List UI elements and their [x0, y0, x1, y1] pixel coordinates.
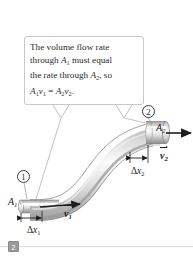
- leader-point-1: [24, 183, 27, 199]
- callout-equation: A1v1 = A2v2.: [30, 85, 142, 100]
- callout-tails: [53, 105, 132, 118]
- velocity-arrow-1: [40, 204, 80, 207]
- label-area-1: A1: [8, 196, 18, 208]
- callout-line-1: The volume flow rate: [30, 41, 142, 54]
- dimension-delta-x1: [21, 211, 42, 222]
- label-delta-x1: Δx1: [27, 225, 41, 236]
- label-velocity-2: v2: [160, 150, 168, 162]
- leader-area-1: [19, 200, 21, 205]
- callout-line-2: through A1 must equal: [30, 54, 142, 69]
- dimension-delta-x2: [130, 145, 148, 163]
- leader-point-2: [148, 118, 152, 124]
- label-velocity-1: v1: [64, 208, 72, 220]
- point-marker-2: 2: [142, 105, 155, 118]
- label-delta-x2: Δx2: [131, 166, 145, 177]
- label-area-2: A2: [156, 122, 166, 134]
- point-marker-1: 1: [17, 170, 30, 183]
- callout-line-3: the rate through A2, so: [30, 69, 142, 84]
- fluid-continuity-figure: The volume flow rate through A1 must equ…: [0, 0, 193, 261]
- leader-lines: [36, 118, 150, 199]
- callout-text: The volume flow rate through A1 must equ…: [30, 41, 142, 100]
- callout-box: The volume flow rate through A1 must equ…: [24, 36, 144, 105]
